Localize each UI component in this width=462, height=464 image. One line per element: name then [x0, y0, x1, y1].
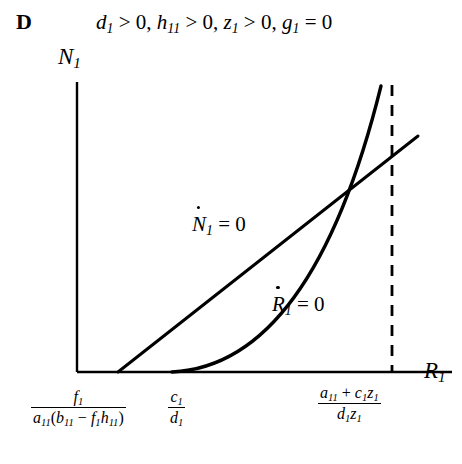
figure-panel-d: D d1 > 0, h11 > 0, z1 > 0, g1 = 0 N1 R1 … [0, 0, 462, 464]
x-tick-label-1: f1 a11(b11 − f1h11) [31, 388, 126, 427]
x-tick-label-3: a11 + c1z1 d1z1 [318, 384, 381, 423]
tick2-denominator: d1 [168, 407, 185, 427]
r-nullcline-label: R1 = 0 [272, 292, 325, 317]
tick2-numerator: c1 [168, 388, 185, 407]
tick3-denominator: d1z1 [318, 403, 381, 423]
tick1-denominator: a11(b11 − f1h11) [31, 407, 126, 427]
x-tick-label-2: c1 d1 [168, 388, 185, 427]
tick3-numerator: a11 + c1z1 [318, 384, 381, 403]
n-nullcline-line [118, 136, 418, 372]
n-nullcline-label: N1 = 0 [192, 212, 246, 237]
tick1-numerator: f1 [31, 388, 126, 407]
